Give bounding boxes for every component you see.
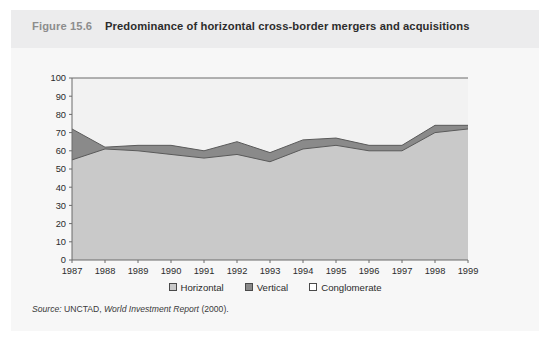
source-year: (2000). xyxy=(201,304,228,314)
figure-header-band: Figure 15.6 Predominance of horizontal c… xyxy=(11,10,539,48)
y-axis-tick-label: 50 xyxy=(56,164,66,174)
legend-swatch-icon xyxy=(245,283,253,291)
legend-swatch-icon xyxy=(309,283,317,291)
legend-label: Conglomerate xyxy=(321,282,381,293)
source-organization: UNCTAD, xyxy=(64,304,102,314)
x-axis-tick-label: 1991 xyxy=(194,266,215,276)
figure-number: Figure 15.6 xyxy=(32,20,92,32)
chart-plot-area: 0102030405060708090100198719881989199019… xyxy=(11,48,539,288)
chart-legend: HorizontalVerticalConglomerate xyxy=(11,278,539,296)
legend-item-vertical[interactable]: Vertical xyxy=(245,282,288,293)
x-axis-tick-label: 1988 xyxy=(95,266,116,276)
x-axis-tick-label: 1993 xyxy=(260,266,281,276)
x-axis-tick-label: 1996 xyxy=(359,266,380,276)
x-axis-tick-label: 1994 xyxy=(293,266,314,276)
y-axis-tick-label: 60 xyxy=(56,146,66,156)
legend-swatch-icon xyxy=(169,283,177,291)
x-axis-tick-label: 1999 xyxy=(458,266,479,276)
x-axis-tick-label: 1992 xyxy=(227,266,248,276)
source-publication: World Investment Report xyxy=(104,304,199,314)
figure-caption: Figure 15.6 Predominance of horizontal c… xyxy=(32,20,470,32)
y-axis-tick-label: 100 xyxy=(50,73,66,83)
y-axis-tick-label: 90 xyxy=(56,92,66,102)
y-axis-tick-label: 70 xyxy=(56,128,66,138)
figure-container: Figure 15.6 Predominance of horizontal c… xyxy=(11,10,539,331)
page-title: Predominance of horizontal cross-border … xyxy=(105,20,469,32)
y-axis-tick-label: 10 xyxy=(56,237,66,247)
y-axis-tick-label: 80 xyxy=(56,110,66,120)
stacked-area-chart: 0102030405060708090100198719881989199019… xyxy=(11,48,539,288)
legend-label: Horizontal xyxy=(181,282,224,293)
legend-item-conglomerate[interactable]: Conglomerate xyxy=(309,282,381,293)
y-axis-tick-label: 30 xyxy=(56,201,66,211)
x-axis-tick-label: 1990 xyxy=(161,266,182,276)
x-axis-tick-label: 1995 xyxy=(326,266,347,276)
y-axis-tick-label: 40 xyxy=(56,183,66,193)
y-axis-tick-label: 20 xyxy=(56,219,66,229)
x-axis-tick-label: 1987 xyxy=(62,266,83,276)
legend-item-horizontal[interactable]: Horizontal xyxy=(169,282,224,293)
x-axis-tick-label: 1989 xyxy=(128,266,149,276)
legend-label: Vertical xyxy=(257,282,288,293)
source-note: Source: UNCTAD, World Investment Report … xyxy=(32,304,229,314)
y-axis-tick-label: 0 xyxy=(61,255,66,265)
source-prefix: Source: xyxy=(32,304,62,314)
x-axis-tick-label: 1997 xyxy=(392,266,413,276)
x-axis-tick-label: 1998 xyxy=(425,266,446,276)
